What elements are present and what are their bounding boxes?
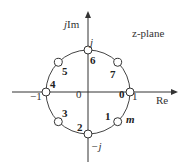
point-1-marker <box>114 118 122 126</box>
point-5-label: 5 <box>62 65 68 77</box>
z-plane-diagram: 0 1 2 3 4 5 6 7 0 1 −1 j −j jIm Re z-pla… <box>0 0 185 166</box>
point-4-label: 4 <box>50 78 56 90</box>
point-6-label: 6 <box>90 54 96 66</box>
plane-title: z-plane <box>132 27 164 39</box>
pos-real-label: 1 <box>132 90 138 102</box>
imag-axis-title: jIm <box>62 18 80 30</box>
point-3-label: 3 <box>62 107 68 119</box>
imag-axis-arrow-icon <box>85 11 91 18</box>
index-m-label: m <box>126 113 135 125</box>
point-1-label: 1 <box>105 110 111 122</box>
neg-real-label: −1 <box>30 90 42 102</box>
point-2-marker <box>84 130 92 138</box>
real-axis-title: Re <box>156 94 168 106</box>
real-axis-arrow-icon <box>171 89 178 95</box>
point-7-marker <box>114 58 122 66</box>
point-2-label: 2 <box>77 121 83 133</box>
point-0-label: 0 <box>119 88 125 100</box>
origin-label: 0 <box>76 88 82 100</box>
neg-imag-label: −j <box>91 140 101 152</box>
point-7-label: 7 <box>110 68 116 80</box>
point-4-marker <box>42 88 50 96</box>
